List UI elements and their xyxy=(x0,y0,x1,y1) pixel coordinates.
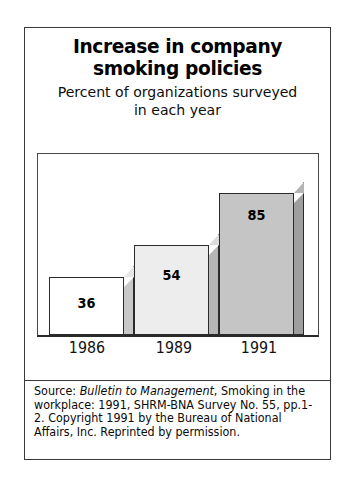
x-axis-baseline xyxy=(37,335,319,337)
source-divider xyxy=(25,380,330,381)
bar-side-face-1989 xyxy=(209,245,219,335)
chart-title: Increase in company smoking policies xyxy=(43,35,312,79)
source-publication: Bulletin to Management xyxy=(80,384,214,398)
bar-front-face-1989 xyxy=(134,245,209,335)
chart-subtitle: Percent of organizations surveyed in eac… xyxy=(37,83,317,119)
chart-title-line-1: Increase in company xyxy=(43,35,312,57)
plot-area: 36 54 85 1986 1989 1991 xyxy=(37,153,320,361)
bar-1989[interactable]: 54 xyxy=(134,245,209,335)
chart-title-line-2: smoking policies xyxy=(43,57,312,79)
source-prefix: Source: xyxy=(34,384,80,398)
figure-card: Increase in company smoking policies Per… xyxy=(24,27,331,460)
bar-1986[interactable]: 36 xyxy=(49,277,124,335)
bar-value-1986: 36 xyxy=(52,295,121,311)
chart-subtitle-line-2: in each year xyxy=(37,101,317,119)
source-note: Source: Bulletin to Management, Smoking … xyxy=(34,385,316,439)
x-axis-label-1986: 1986 xyxy=(45,339,129,357)
x-axis-label-1989: 1989 xyxy=(132,339,216,357)
bar-value-1991: 85 xyxy=(222,207,291,223)
bar-value-1989: 54 xyxy=(137,267,206,283)
chart-subtitle-line-1: Percent of organizations surveyed xyxy=(37,83,317,101)
bar-side-face-1986 xyxy=(124,277,134,335)
bar-side-face-1991 xyxy=(294,193,304,335)
x-axis-label-1991: 1991 xyxy=(217,339,301,357)
title-block: Increase in company smoking policies Per… xyxy=(25,28,330,119)
bar-1991[interactable]: 85 xyxy=(219,193,294,335)
